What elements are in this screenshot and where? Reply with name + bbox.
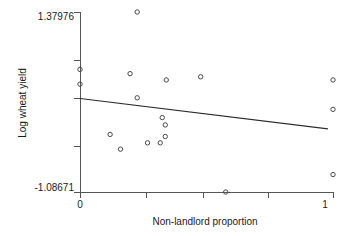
data-point: [135, 10, 139, 14]
data-point: [331, 172, 335, 176]
x-tick-label-max: 1: [322, 199, 328, 210]
plot-canvas: 1.37976 -1.08671 0 1 Non-landlord propor…: [0, 0, 348, 236]
data-point: [331, 78, 335, 82]
data-point: [145, 141, 149, 145]
data-points: [78, 10, 335, 194]
data-point: [163, 134, 167, 138]
data-point: [128, 71, 132, 75]
data-point: [164, 78, 168, 82]
data-point: [331, 107, 335, 111]
data-point: [198, 75, 202, 79]
regression-line: [80, 98, 328, 128]
data-point: [135, 96, 139, 100]
fit-line: [80, 98, 328, 128]
data-point: [158, 141, 162, 145]
data-point: [163, 123, 167, 127]
scatter-plot-figure: 1.37976 -1.08671 0 1 Non-landlord propor…: [0, 0, 348, 236]
data-point: [118, 147, 122, 151]
x-axis-title: Non-landlord proportion: [152, 216, 257, 227]
y-tick-label-min: -1.08671: [35, 182, 75, 193]
x-tick-label-min: 0: [77, 199, 83, 210]
y-axis-title: Log wheat yield: [17, 68, 28, 138]
y-axis-ticks: [74, 13, 80, 193]
data-point: [108, 132, 112, 136]
data-point: [160, 115, 164, 119]
y-tick-label-max: 1.37976: [38, 11, 75, 22]
